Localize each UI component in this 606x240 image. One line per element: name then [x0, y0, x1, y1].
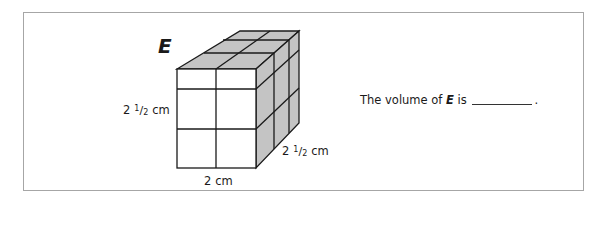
question-text: The volume of E is .: [360, 93, 538, 107]
answer-blank[interactable]: [472, 93, 532, 105]
height-label: 2 1/2 cm: [123, 103, 170, 117]
depth-unit: cm: [311, 144, 329, 158]
width-label: 2 cm: [204, 174, 233, 188]
depth-label: 2 1/2 cm: [282, 144, 329, 158]
height-frac-den: 2: [143, 108, 148, 117]
question-suffix: .: [534, 93, 538, 107]
height-unit: cm: [152, 103, 170, 117]
question-letter: E: [446, 93, 454, 107]
question-middle: is: [454, 93, 467, 107]
depth-whole: 2: [282, 144, 289, 158]
question-prefix: The volume of: [360, 93, 446, 107]
figure-letter-label: E: [158, 34, 172, 58]
depth-frac-den: 2: [302, 149, 307, 158]
height-whole: 2: [123, 103, 130, 117]
